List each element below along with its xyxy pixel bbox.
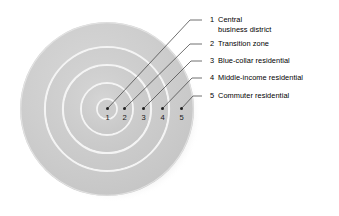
leader-dot-5 [180,107,183,110]
zone-number-4: 4 [160,113,164,122]
legend-item-5-number: 5 [205,91,214,101]
leader-dot-3 [142,107,145,110]
zone-number-1: 1 [105,113,109,122]
legend-item-2-number: 2 [205,39,214,49]
leader-dot-2 [123,107,126,110]
legend-item-5-label: Commuter residential [218,91,289,101]
leader-dot-1 [106,107,109,110]
concentric-zone-model-figure: 1 2 3 4 5 1 Central business district 2 … [0,0,339,216]
zone-number-5: 5 [179,113,183,122]
legend: 1 Central business district 2 Transition… [205,0,339,216]
legend-item-1-label: Central [218,15,242,25]
legend-item-3-label: Blue-collar residential [218,56,290,66]
legend-item-4-label: Middle-income residential [218,73,303,83]
legend-item-1-label-line2: business district [218,25,271,35]
legend-item-3-number: 3 [205,56,214,66]
zone-number-2: 2 [122,113,126,122]
legend-item-1-number: 1 [205,15,214,25]
legend-item-2-label: Transition zone [218,39,269,49]
legend-item-4-number: 4 [205,73,214,83]
leader-dot-4 [161,107,164,110]
zone-number-3: 3 [141,113,145,122]
